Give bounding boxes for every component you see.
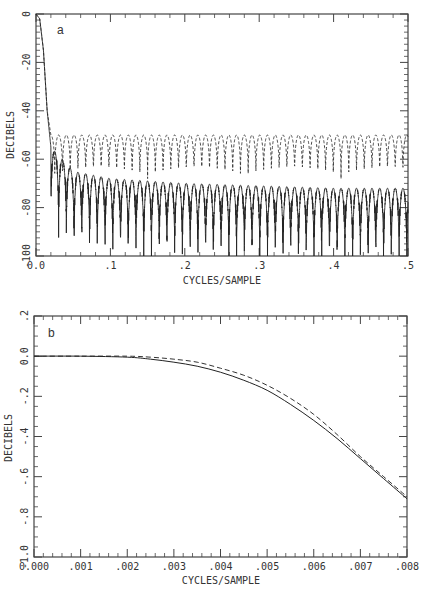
svg-text:.1: .1 — [104, 260, 116, 271]
svg-text:-100: -100 — [21, 244, 32, 268]
svg-text:.005: .005 — [255, 561, 279, 572]
svg-text:.5: .5 — [402, 260, 414, 271]
y-axis-title-a: DECIBELS — [5, 111, 16, 159]
svg-text:.2: .2 — [19, 310, 30, 322]
series-dashed-a — [36, 14, 408, 179]
panel-label-a: a — [57, 23, 64, 37]
svg-text:.008: .008 — [395, 561, 419, 572]
svg-text:-.2: -.2 — [19, 387, 30, 405]
chart-panel-a: 0.0.1.2.3.4.5 0-20-40-60-80-100 a CYCLES… — [5, 11, 414, 286]
svg-text:.3: .3 — [253, 260, 265, 271]
chart-panel-b: 0.000.001.002.003.004.005.006.007.008 .2… — [3, 310, 419, 586]
svg-text:-.8: -.8 — [19, 508, 30, 526]
x-tick-labels-b: 0.000.001.002.003.004.005.006.007.008 — [19, 561, 419, 572]
svg-text:.004: .004 — [208, 561, 232, 572]
x-ticks-b — [34, 316, 407, 557]
y-tick-labels-a: 0-20-40-60-80-100 — [21, 11, 32, 268]
plot-area-b — [34, 316, 407, 557]
y-tick-labels-b: .20.0-.2-.4-.6-.8-1.0 — [19, 310, 30, 569]
figure: 0.0.1.2.3.4.5 0-20-40-60-80-100 a CYCLES… — [0, 0, 430, 599]
x-axis-title-b: CYCLES/SAMPLE — [182, 575, 260, 586]
svg-text:.007: .007 — [348, 561, 372, 572]
svg-text:-40: -40 — [21, 102, 32, 120]
svg-text:.006: .006 — [302, 561, 326, 572]
series-solid-b — [34, 356, 407, 499]
x-tick-labels-a: 0.0.1.2.3.4.5 — [27, 260, 414, 271]
x-axis-title-a: CYCLES/SAMPLE — [183, 275, 261, 286]
panel-label-b: b — [48, 326, 55, 340]
svg-text:-.4: -.4 — [19, 427, 30, 445]
series-dashed-b — [34, 356, 407, 497]
svg-text:.003: .003 — [162, 561, 186, 572]
series-solid-a — [36, 14, 408, 256]
y-ticks-b — [34, 316, 407, 557]
svg-text:0.0: 0.0 — [19, 347, 30, 365]
svg-text:-20: -20 — [21, 53, 32, 71]
svg-text:.2: .2 — [179, 260, 191, 271]
svg-text:-1.0: -1.0 — [19, 545, 30, 569]
svg-text:-60: -60 — [21, 150, 32, 168]
svg-text:.002: .002 — [115, 561, 139, 572]
y-axis-title-b: DECIBELS — [3, 414, 14, 462]
svg-text:0: 0 — [21, 11, 32, 17]
svg-text:.001: .001 — [69, 561, 93, 572]
svg-text:-.6: -.6 — [19, 468, 30, 486]
svg-text:.4: .4 — [328, 260, 340, 271]
svg-text:-80: -80 — [21, 199, 32, 217]
